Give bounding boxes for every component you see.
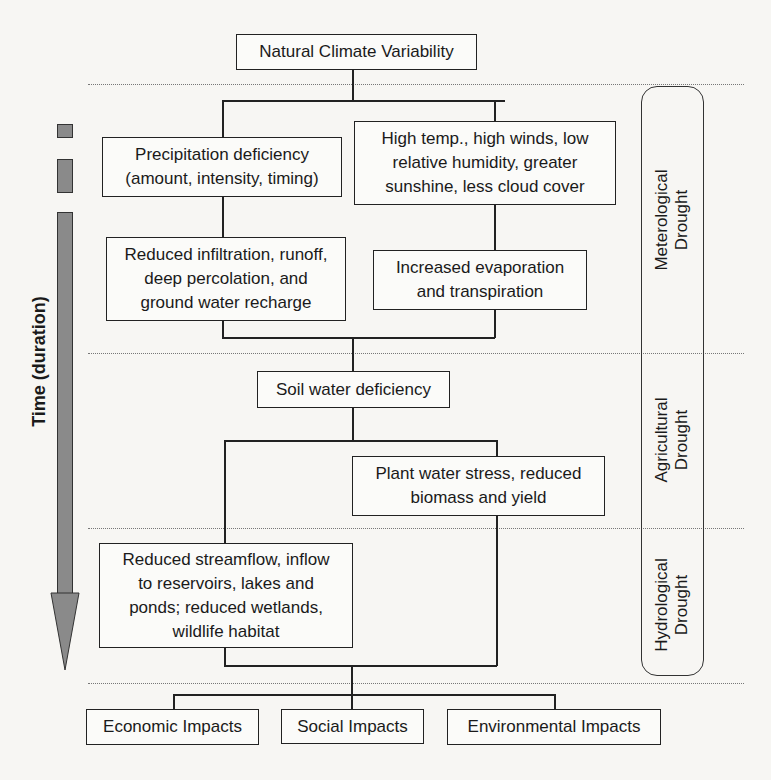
connector bbox=[173, 694, 175, 710]
node-natural-climate-variability: Natural Climate Variability bbox=[236, 34, 477, 70]
connector bbox=[224, 665, 497, 667]
connector bbox=[222, 100, 505, 102]
connector bbox=[494, 205, 496, 251]
label-meteorological-drought: Meterological Drought bbox=[652, 110, 692, 330]
time-bar-segment bbox=[57, 159, 73, 193]
time-axis-label: Time (duration) bbox=[29, 252, 50, 472]
connector bbox=[554, 694, 556, 710]
connector bbox=[494, 100, 496, 122]
node-reduced-streamflow: Reduced streamflow, inflow to reservoirs… bbox=[99, 543, 353, 648]
node-increased-evaporation: Increased evaporation and transpiration bbox=[373, 250, 587, 310]
connector bbox=[222, 197, 224, 237]
connector bbox=[496, 440, 498, 457]
connector bbox=[222, 337, 495, 339]
node-plant-water-stress: Plant water stress, reduced biomass and … bbox=[352, 456, 605, 516]
connector bbox=[352, 408, 354, 441]
connector bbox=[222, 100, 224, 138]
label-hydrological-drought: Hydrological Drought bbox=[652, 495, 692, 715]
connector bbox=[224, 440, 497, 442]
connector bbox=[224, 648, 226, 666]
node-reduced-infiltration: Reduced infiltration, runoff, deep perco… bbox=[106, 237, 346, 321]
impact-economic: Economic Impacts bbox=[86, 709, 259, 745]
impact-social: Social Impacts bbox=[281, 709, 424, 744]
node-soil-water-deficiency: Soil water deficiency bbox=[257, 371, 450, 408]
connector bbox=[494, 310, 496, 338]
node-high-temperature: High temp., high winds, low relative hum… bbox=[354, 121, 616, 205]
node-precipitation-deficiency: Precipitation deficiency (amount, intens… bbox=[102, 137, 342, 197]
impact-environmental: Environmental Impacts bbox=[447, 709, 661, 745]
time-bar-segment bbox=[57, 124, 73, 138]
connector bbox=[496, 516, 498, 666]
connector bbox=[352, 337, 354, 372]
time-arrow-shaft bbox=[57, 212, 73, 594]
connector bbox=[352, 70, 354, 101]
connector bbox=[224, 440, 226, 544]
connector bbox=[222, 321, 224, 338]
connector bbox=[173, 694, 555, 696]
separator-line bbox=[88, 683, 744, 684]
time-arrow-head-icon bbox=[50, 592, 80, 672]
separator-line bbox=[88, 84, 744, 85]
